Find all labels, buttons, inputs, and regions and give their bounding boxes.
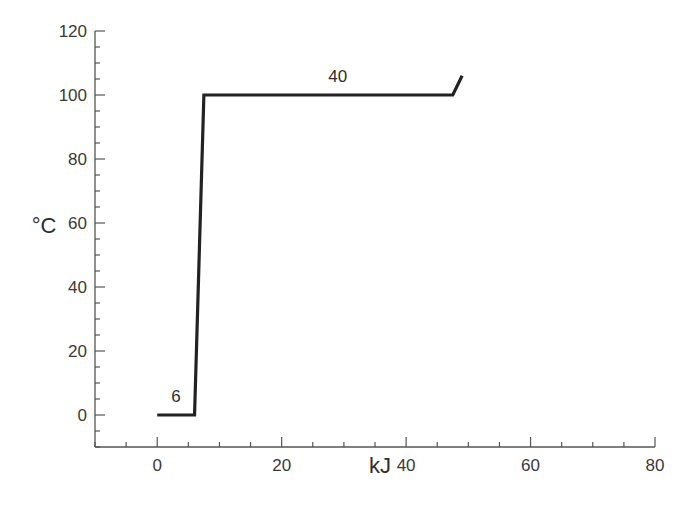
x-axis-label: kJ (369, 453, 391, 478)
y-tick-label: 80 (68, 150, 87, 169)
plot-series (157, 76, 462, 415)
y-tick-label: 20 (68, 342, 87, 361)
annotation-label: 6 (171, 387, 180, 406)
y-tick-label: 60 (68, 214, 87, 233)
y-tick-label: 100 (59, 86, 87, 105)
y-axis-label: °C (32, 213, 57, 238)
chart: 020406080 020406080100120 640 kJ °C (0, 0, 694, 523)
heating-curve-line (157, 76, 462, 415)
x-tick-label: 80 (646, 456, 665, 475)
y-tick-label: 40 (68, 278, 87, 297)
x-tick-label: 40 (397, 456, 416, 475)
x-tick-label: 0 (152, 456, 161, 475)
x-tick-label: 60 (521, 456, 540, 475)
y-axis-ticks: 020406080100120 (59, 22, 105, 447)
annotation-label: 40 (328, 67, 347, 86)
x-tick-label: 20 (272, 456, 291, 475)
y-tick-label: 120 (59, 22, 87, 41)
y-tick-label: 0 (78, 406, 87, 425)
